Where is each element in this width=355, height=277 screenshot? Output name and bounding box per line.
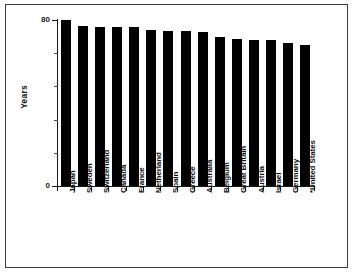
x-axis-label-belgium: Belgium xyxy=(223,162,231,193)
x-axis-label-switzerland: Switzerland xyxy=(103,150,111,193)
x-axis-label-austria: Austria xyxy=(258,166,266,193)
bar-greece xyxy=(181,31,191,186)
bar-france xyxy=(129,27,139,186)
x-axis-label-greatbritain: Great Britain xyxy=(240,146,248,193)
bar-spain xyxy=(163,31,173,186)
x-axis-label-japan: Japan xyxy=(69,170,77,193)
x-axis-label-australia: Australia xyxy=(206,160,214,193)
x-axis-label-netherland: Netherland xyxy=(155,152,163,193)
x-axis-label-unitedstates: *United States xyxy=(309,140,317,193)
x-axis-label-israel: Israel xyxy=(275,173,283,193)
y-tick-label-80: 80 xyxy=(4,16,50,24)
y-axis-title: Years xyxy=(19,67,29,127)
bar-canada xyxy=(112,27,122,186)
plot-area xyxy=(57,20,314,186)
chart-figure: Years 80 0 JapanSwedenSwitzerlandCanadaF… xyxy=(0,0,355,277)
bar-israel xyxy=(266,40,276,186)
x-axis-label-germany: Germany xyxy=(292,159,300,193)
x-tick-0 xyxy=(57,187,58,191)
x-axis-label-spain: Spain xyxy=(172,172,180,193)
bar-japan xyxy=(61,20,71,186)
x-axis-label-france: France xyxy=(138,167,146,193)
x-axis-label-canada: Canada xyxy=(120,165,128,193)
bar-austria xyxy=(249,40,259,186)
x-axis-label-greece: Greece xyxy=(189,166,197,193)
x-axis-label-sweden: Sweden xyxy=(86,163,94,193)
y-tick-label-0: 0 xyxy=(4,182,50,190)
